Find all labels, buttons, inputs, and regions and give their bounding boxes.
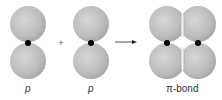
plus-operator: + bbox=[58, 38, 63, 48]
label-p-left: p bbox=[25, 83, 31, 94]
overlap-region-bottom bbox=[180, 47, 185, 71]
label-pi-bond: π-bond bbox=[166, 83, 198, 94]
nucleus-icon bbox=[88, 40, 94, 46]
overlap-region-top bbox=[180, 14, 185, 38]
pi-bond-orbitals bbox=[149, 6, 216, 79]
arrow-icon bbox=[115, 40, 137, 44]
label-p-middle: p bbox=[88, 83, 94, 94]
nucleus-icon bbox=[195, 40, 201, 46]
nucleus-icon bbox=[164, 40, 170, 46]
nucleus-icon bbox=[25, 40, 31, 46]
p-orbital-left bbox=[10, 6, 46, 79]
p-orbital-middle bbox=[73, 6, 109, 79]
